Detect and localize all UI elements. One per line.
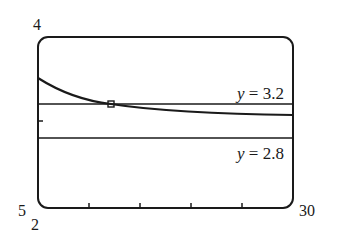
x-max-label: 30 — [299, 202, 315, 219]
y-min-label: 5 — [18, 202, 26, 219]
label-y-2-8: y = 2.8 — [235, 144, 284, 163]
chart: y = 3.2 y = 2.8 4 5 2 30 — [0, 0, 340, 251]
plot-frame — [38, 37, 293, 208]
label-y-3-2: y = 3.2 — [235, 84, 284, 103]
y-max-label: 4 — [33, 16, 41, 33]
x-min-label: 2 — [31, 216, 39, 233]
